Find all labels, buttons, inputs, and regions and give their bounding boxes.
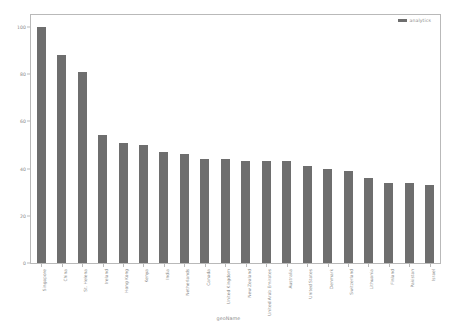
- bar[interactable]: [344, 171, 353, 263]
- x-tick-slot: United Arab Emirates: [256, 264, 276, 310]
- x-tick-label: Ireland: [105, 269, 109, 286]
- bar-slot: [92, 15, 112, 263]
- x-tick-label: United States: [309, 269, 313, 301]
- bar-slot: [256, 15, 276, 263]
- x-tick-label: Pakistan: [412, 269, 416, 289]
- x-tick-slot: St. Helena: [72, 264, 92, 310]
- x-tick-slot: Hong Kong: [113, 264, 133, 310]
- x-tick-slot: United States: [297, 264, 317, 310]
- bar-slot: [420, 15, 440, 263]
- bar[interactable]: [364, 178, 373, 263]
- bar[interactable]: [119, 143, 128, 263]
- bar[interactable]: [405, 183, 414, 263]
- bar[interactable]: [200, 159, 209, 263]
- bar[interactable]: [180, 154, 189, 263]
- bar-slot: [379, 15, 399, 263]
- bar-series-analytics: [31, 15, 440, 263]
- bar-slot: [236, 15, 256, 263]
- x-tick-mark: [82, 264, 83, 267]
- bar-slot: [297, 15, 317, 263]
- y-tick-mark: [27, 121, 30, 122]
- x-tick-slot: Pakistan: [399, 264, 419, 310]
- y-axis: 020406080100: [0, 14, 30, 264]
- x-tick-label: Lithuania: [371, 269, 375, 291]
- x-tick-mark: [184, 264, 185, 267]
- x-tick-label: United Kingdom: [228, 269, 232, 306]
- x-tick-mark: [143, 264, 144, 267]
- bar[interactable]: [37, 27, 46, 263]
- x-tick-mark: [430, 264, 431, 267]
- x-tick-label: Finland: [391, 269, 395, 287]
- x-tick-mark: [225, 264, 226, 267]
- x-tick-mark: [164, 264, 165, 267]
- x-tick-slot: Singapore: [31, 264, 51, 310]
- bar[interactable]: [425, 185, 434, 263]
- x-tick-label: Switzerland: [350, 269, 354, 297]
- x-tick-mark: [62, 264, 63, 267]
- x-tick-label: China: [64, 269, 68, 284]
- x-tick-mark: [266, 264, 267, 267]
- y-tick-mark: [27, 168, 30, 169]
- bar[interactable]: [384, 183, 393, 263]
- bar-slot: [338, 15, 358, 263]
- bar[interactable]: [78, 72, 87, 263]
- x-tick-label: Kenya: [146, 269, 150, 284]
- x-tick-slot: Australia: [276, 264, 296, 310]
- x-tick-mark: [389, 264, 390, 267]
- bar[interactable]: [241, 161, 250, 263]
- x-tick-mark: [246, 264, 247, 267]
- x-tick-slot: Kenya: [133, 264, 153, 310]
- bar[interactable]: [139, 145, 148, 263]
- x-tick-slot: Israel: [420, 264, 440, 310]
- y-tick-label: 80: [20, 72, 26, 77]
- x-tick-label: Hong Kong: [125, 269, 129, 295]
- bar[interactable]: [262, 161, 271, 263]
- bar[interactable]: [57, 55, 66, 263]
- bar-slot: [358, 15, 378, 263]
- x-tick-slot: Denmark: [317, 264, 337, 310]
- x-tick-mark: [348, 264, 349, 267]
- x-tick-slot: Ireland: [92, 264, 112, 310]
- x-tick-slot: Canada: [195, 264, 215, 310]
- bar[interactable]: [323, 169, 332, 263]
- x-axis-title: geoName: [0, 316, 457, 321]
- x-tick-label: Australia: [289, 269, 293, 290]
- y-tick-label: 100: [17, 24, 26, 29]
- legend-swatch-analytics: [398, 19, 407, 23]
- bar-slot: [317, 15, 337, 263]
- bar[interactable]: [303, 166, 312, 263]
- bar-slot: [133, 15, 153, 263]
- x-tick-slot: China: [51, 264, 71, 310]
- bar-chart-figure: 020406080100 SingaporeChinaSt. HelenaIre…: [0, 0, 457, 336]
- x-tick-slot: Switzerland: [338, 264, 358, 310]
- x-tick-mark: [103, 264, 104, 267]
- bar-slot: [72, 15, 92, 263]
- bar-slot: [195, 15, 215, 263]
- y-tick-label: 60: [20, 119, 26, 124]
- x-tick-mark: [328, 264, 329, 267]
- bar[interactable]: [221, 159, 230, 263]
- bar-slot: [154, 15, 174, 263]
- legend-label-analytics: analytics: [410, 18, 431, 23]
- y-tick-mark: [27, 26, 30, 27]
- bar[interactable]: [159, 152, 168, 263]
- bar-slot: [113, 15, 133, 263]
- x-tick-label: Canada: [207, 269, 211, 288]
- bar-slot: [215, 15, 235, 263]
- y-tick-label: 20: [20, 213, 26, 218]
- bar-slot: [399, 15, 419, 263]
- bar-slot: [276, 15, 296, 263]
- x-tick-label: Denmark: [330, 269, 334, 291]
- bar[interactable]: [282, 161, 291, 263]
- x-tick-mark: [368, 264, 369, 267]
- x-tick-mark: [287, 264, 288, 267]
- x-tick-mark: [409, 264, 410, 267]
- bar-slot: [31, 15, 51, 263]
- bar-slot: [174, 15, 194, 263]
- y-tick-mark: [27, 74, 30, 75]
- x-tick-label: New Zealand: [248, 269, 252, 300]
- x-tick-label: Israel: [432, 269, 436, 283]
- x-tick-mark: [307, 264, 308, 267]
- x-tick-slot: India: [154, 264, 174, 310]
- bar[interactable]: [98, 135, 107, 263]
